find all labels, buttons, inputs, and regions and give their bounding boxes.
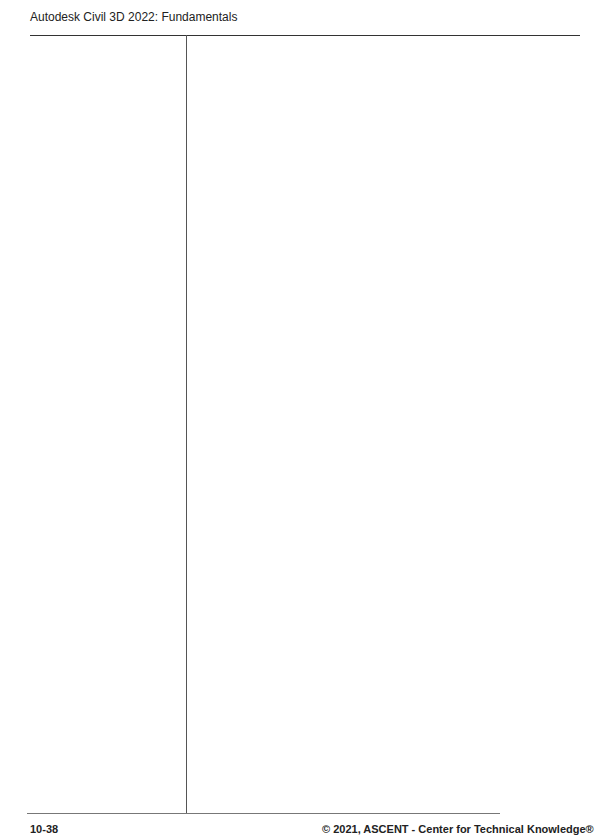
footer-rule: [27, 813, 500, 814]
sidebar-column: [30, 36, 186, 813]
running-header: Autodesk Civil 3D 2022: Fundamentals: [30, 10, 237, 24]
copyright-notice: © 2021, ASCENT - Center for Technical Kn…: [322, 823, 594, 835]
main-column: [187, 36, 580, 813]
page-number: 10-38: [30, 823, 58, 835]
